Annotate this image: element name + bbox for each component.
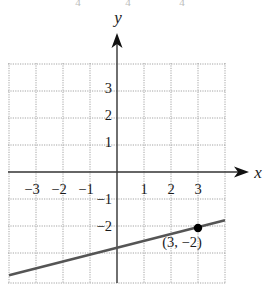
point-label: (3, −2)	[162, 234, 202, 251]
x-axis-label: x	[253, 163, 262, 182]
tick-labels: −3−2−1123321−1−2	[24, 80, 201, 234]
x-tick-label: −1	[78, 181, 93, 197]
y-tick-label: −1	[97, 191, 112, 207]
cropped-text-fragment: 4	[75, 0, 81, 8]
x-tick-label: −2	[51, 181, 66, 197]
cropped-text-fragment: 4	[125, 0, 131, 8]
y-tick-label: 3	[105, 80, 112, 96]
cropped-header-fragment: 444	[75, 0, 185, 8]
cropped-text-fragment: 4	[179, 0, 185, 8]
y-tick-label: 2	[105, 107, 112, 123]
y-tick-label: 1	[105, 134, 112, 150]
x-tick-label: −3	[24, 181, 39, 197]
x-tick-label: 3	[194, 181, 201, 197]
coordinate-plane: 444 xy (3, −2) −3−2−1123321−1−2	[0, 0, 264, 295]
x-tick-label: 2	[167, 181, 174, 197]
axes: xy	[8, 8, 262, 283]
y-axis-label: y	[112, 8, 122, 27]
data-point	[194, 224, 202, 232]
y-tick-label: −2	[97, 218, 112, 234]
x-tick-label: 1	[140, 181, 147, 197]
